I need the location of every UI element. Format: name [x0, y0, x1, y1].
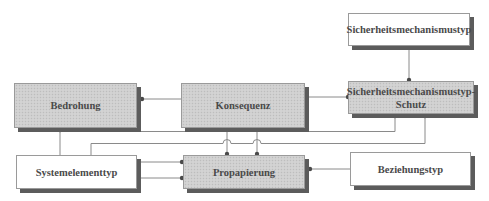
box-label: Konsequenz: [216, 99, 271, 112]
box-label-line2: Schutz: [396, 98, 426, 111]
connector-dot: [140, 97, 144, 101]
box-beziehungstyp[interactable]: Beziehungstyp: [350, 152, 471, 186]
box-label: Propapierung: [213, 166, 275, 179]
diagram-canvas: Sicherheitsmechanismustyp Bedrohung Kons…: [0, 0, 489, 201]
connector-dot: [423, 114, 427, 118]
connector-dot: [58, 128, 62, 132]
box-label: Sicherheitsmechanismustyp: [347, 23, 472, 36]
box-label: Beziehungstyp: [378, 163, 443, 176]
connector-dot: [393, 114, 397, 118]
box-propapierung[interactable]: Propapierung: [183, 155, 305, 189]
connector-dot: [308, 167, 312, 171]
box-sicherheitsmechanismustyp[interactable]: Sicherheitsmechanismustyp: [348, 13, 470, 46]
box-label: Bedrohung: [51, 99, 101, 112]
box-bedrohung[interactable]: Bedrohung: [14, 83, 137, 128]
box-systemelementtyp[interactable]: Systemelementtyp: [16, 155, 137, 189]
box-label: Systemelementtyp: [36, 166, 118, 179]
box-konsequenz[interactable]: Konsequenz: [181, 83, 305, 128]
box-label-line1: Sicherheitsmechanismustyp-: [347, 85, 475, 98]
box-sicherheitsmechanismustyp-schutz[interactable]: Sicherheitsmechanismustyp- Schutz: [348, 81, 474, 114]
